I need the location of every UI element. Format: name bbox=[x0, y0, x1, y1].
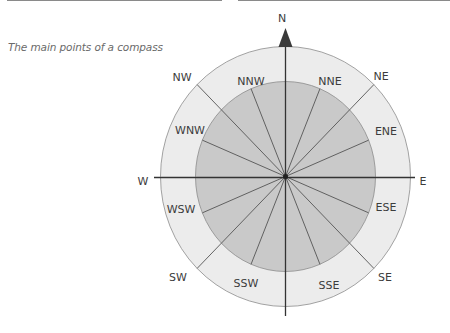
label-nnw: NNW bbox=[237, 75, 264, 88]
label-w: W bbox=[138, 175, 149, 188]
label-sse: SSE bbox=[319, 279, 340, 292]
label-ne: NE bbox=[373, 70, 388, 83]
label-wnw: WNW bbox=[175, 124, 205, 137]
label-ssw: SSW bbox=[234, 277, 259, 290]
label-nne: NNE bbox=[318, 75, 341, 88]
label-e: E bbox=[420, 175, 427, 188]
label-sw: SW bbox=[169, 271, 187, 284]
label-se: SE bbox=[378, 271, 392, 284]
north-arrow-icon bbox=[279, 28, 293, 47]
label-ese: ESE bbox=[376, 201, 397, 214]
compass-diagram: N E W NW NE SW SE NNW NNE WNW ENE WSW ES… bbox=[0, 0, 450, 333]
label-ene: ENE bbox=[375, 125, 397, 138]
label-wsw: WSW bbox=[167, 203, 196, 216]
label-n: N bbox=[278, 12, 286, 25]
label-nw: NW bbox=[172, 71, 191, 84]
center-pivot bbox=[283, 174, 288, 179]
